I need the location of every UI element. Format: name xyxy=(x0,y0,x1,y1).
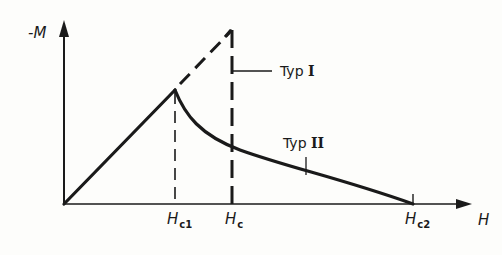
magnetization-diagram: -M H Hc1 Hc Hc2 Typ I Typ II xyxy=(0,0,502,255)
linear-rise-curve xyxy=(64,90,175,204)
tick-label-hc1: Hc1 xyxy=(167,212,192,227)
y-axis-arrow-icon xyxy=(59,20,69,37)
tick-label-hc: Hc xyxy=(225,212,243,227)
tick-label-hc2: Hc2 xyxy=(405,212,430,227)
annotation-typ1: Typ I xyxy=(280,64,315,78)
y-axis-label: -M xyxy=(28,26,46,41)
x-axis-label: H xyxy=(478,213,489,228)
x-axis-arrow-icon xyxy=(456,199,472,209)
annotation-typ2: Typ II xyxy=(283,136,324,150)
typ1-dashed-extension xyxy=(180,30,232,84)
